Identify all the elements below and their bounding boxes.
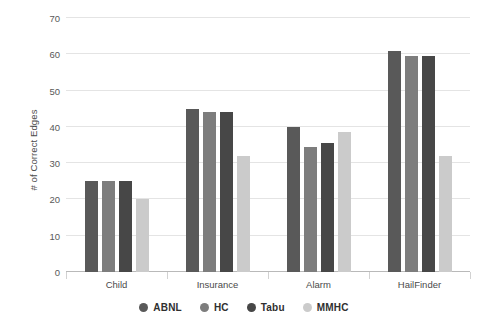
bar[interactable] (422, 56, 435, 272)
legend-label: MMHC (317, 302, 349, 313)
bar[interactable] (119, 181, 132, 272)
legend-swatch-circle-icon (200, 303, 209, 312)
category-tick (369, 272, 370, 279)
legend-swatch-circle-icon (247, 303, 256, 312)
bar[interactable] (388, 51, 401, 272)
bar-group (66, 18, 167, 272)
x-axis-tick-label: Alarm (268, 279, 369, 295)
bar[interactable] (220, 112, 233, 272)
legend-swatch-circle-icon (303, 303, 312, 312)
x-axis-tick-labels: ChildInsuranceAlarmHailFinder (66, 279, 470, 295)
category-tick (167, 272, 168, 279)
legend-item[interactable]: MMHC (303, 302, 349, 313)
y-axis-tick-label: 40 (34, 121, 60, 132)
y-axis-tick-label: 0 (34, 267, 60, 278)
legend-label: ABNL (153, 302, 182, 313)
bar[interactable] (287, 127, 300, 272)
category-tick (268, 272, 269, 279)
bar[interactable] (203, 112, 216, 272)
chart-legend: ABNLHCTabuMMHC (0, 296, 488, 318)
bar[interactable] (321, 143, 334, 272)
legend-item[interactable]: Tabu (247, 302, 285, 313)
bar-chart: # of Correct Edges 010203040506070 Child… (0, 0, 488, 328)
bar-group (167, 18, 268, 272)
bar[interactable] (102, 181, 115, 272)
y-axis-tick-labels: 010203040506070 (34, 18, 60, 272)
y-axis-tick-label: 10 (34, 230, 60, 241)
category-tick-marks (66, 272, 470, 279)
y-axis-tick-label: 60 (34, 49, 60, 60)
y-axis-tick-label: 30 (34, 158, 60, 169)
legend-label: Tabu (261, 302, 285, 313)
legend-label: HC (214, 302, 229, 313)
bar-group (369, 18, 470, 272)
y-axis-tick-label: 20 (34, 194, 60, 205)
bars-layer (66, 18, 470, 272)
bar[interactable] (439, 156, 452, 272)
y-axis-tick-label: 50 (34, 85, 60, 96)
bar[interactable] (405, 56, 418, 272)
x-axis-tick-label: Insurance (167, 279, 268, 295)
category-tick (66, 272, 67, 279)
legend-item[interactable]: ABNL (139, 302, 182, 313)
bar[interactable] (237, 156, 250, 272)
x-axis-tick-label: HailFinder (369, 279, 470, 295)
bar[interactable] (136, 199, 149, 272)
legend-swatch-circle-icon (139, 303, 148, 312)
bar-group (268, 18, 369, 272)
category-tick (470, 272, 471, 279)
y-axis-tick-label: 70 (34, 13, 60, 24)
bar[interactable] (85, 181, 98, 272)
x-axis-tick-label: Child (66, 279, 167, 295)
legend-item[interactable]: HC (200, 302, 229, 313)
bar[interactable] (304, 147, 317, 272)
bar[interactable] (186, 109, 199, 272)
plot-area (66, 18, 470, 272)
bar[interactable] (338, 132, 351, 272)
